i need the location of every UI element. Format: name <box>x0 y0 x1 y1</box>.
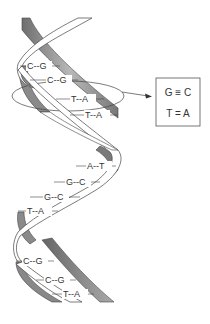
base-pair-label: G--C <box>44 192 64 202</box>
base-pair-label: C--G <box>45 275 65 285</box>
base-pair-label: C--G <box>47 75 67 85</box>
legend-gc-triple-bond: G ≡ C <box>165 87 191 98</box>
pairing-legend: G ≡ C T = A <box>156 78 200 126</box>
base-pair-label: T--A <box>85 110 102 120</box>
arrowhead-icon <box>145 94 152 99</box>
base-pair-label: T--A <box>71 94 88 104</box>
legend-ta-double-bond: T = A <box>166 108 190 119</box>
base-pair-label: T--A <box>27 206 44 216</box>
base-pair-label: T--A <box>63 289 80 299</box>
pointer-arrow <box>122 92 152 99</box>
base-pair-label: C--G <box>23 256 43 266</box>
dna-helix-diagram: C--G C--G T--A T--A A--T G--C G--C T--A … <box>0 0 210 324</box>
base-pair-label: C--G <box>27 61 47 71</box>
base-pair-label: A--T <box>87 161 105 171</box>
base-pair-label: G--C <box>66 177 86 187</box>
